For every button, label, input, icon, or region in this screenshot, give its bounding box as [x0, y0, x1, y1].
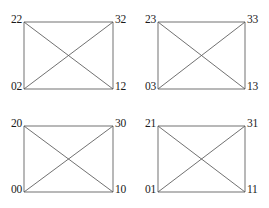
graph-bottom-right: 21 31 01 11	[134, 104, 269, 208]
node-label-top-left: 21	[136, 118, 156, 130]
node-label-bottom-left: 01	[136, 184, 156, 196]
node-label-bottom-left: 00	[2, 184, 22, 196]
node-label-top-left: 23	[136, 14, 156, 26]
node-label-bottom-left: 03	[136, 81, 156, 93]
node-label-top-right: 33	[247, 14, 267, 26]
node-label-top-right: 31	[247, 118, 267, 130]
node-label-top-left: 22	[2, 14, 22, 26]
node-label-bottom-right: 13	[247, 81, 267, 93]
node-label-bottom-right: 10	[115, 184, 135, 196]
node-label-bottom-right: 12	[115, 81, 135, 93]
node-label-top-left: 20	[2, 118, 22, 130]
graph-top-left: 22 32 02 12	[0, 0, 134, 104]
node-label-bottom-left: 02	[2, 81, 22, 93]
figure-grid: 22 32 02 12 23 33 03 13 20 30 00	[0, 0, 269, 208]
node-label-top-right: 32	[115, 14, 135, 26]
graph-bottom-left: 20 30 00 10	[0, 104, 134, 208]
graph-top-right: 23 33 03 13	[134, 0, 269, 104]
node-label-top-right: 30	[115, 118, 135, 130]
node-label-bottom-right: 11	[247, 184, 267, 196]
